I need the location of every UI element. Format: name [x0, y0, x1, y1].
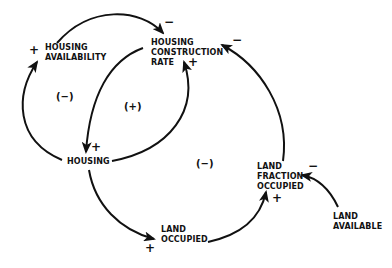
sign-available-to-fraction: −	[308, 160, 318, 172]
sign-construction-to-housing: +	[91, 141, 101, 153]
edge-available-to-fraction	[302, 175, 338, 207]
node-housing: HOUSING	[67, 157, 110, 167]
sign-fraction-to-construction: −	[232, 34, 242, 46]
edge-housing-to-land-occupied	[89, 170, 154, 239]
loop-polarity-left: (−)	[56, 91, 74, 102]
edge-construction-to-housing	[86, 48, 143, 152]
edge-housing-to-availability	[23, 62, 62, 160]
edge-availability-to-construction	[57, 14, 163, 43]
sign-housing-to-construction: +	[188, 56, 198, 68]
sign-housing-to-availability: +	[29, 44, 39, 56]
sign-land-occupied-to-fraction: +	[272, 192, 282, 204]
node-land-fraction-occupied: LAND FRACTION OCCUPIED	[257, 162, 304, 192]
sign-housing-to-land-occupied: +	[145, 242, 155, 254]
sign-availability-to-construction: −	[164, 16, 174, 28]
node-land-available: LAND AVAILABLE	[333, 212, 382, 232]
edge-land-occupied-to-fraction	[208, 192, 266, 242]
node-land-occupied: LAND OCCUPIED	[161, 225, 208, 245]
edge-fraction-to-construction	[222, 45, 284, 161]
loop-polarity-center: (+)	[124, 101, 142, 112]
loop-polarity-right: (−)	[196, 158, 214, 169]
node-housing-availability: HOUSING AVAILABILITY	[45, 43, 106, 63]
